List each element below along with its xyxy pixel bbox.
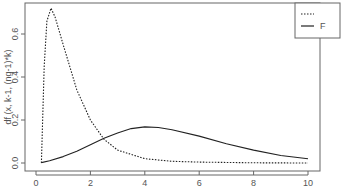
x-tick-label: 6 [197, 178, 202, 188]
legend: F [295, 3, 340, 38]
x-tick-label: 10 [303, 178, 313, 188]
x-tick-label: 0 [33, 178, 38, 188]
x-tick-label: 4 [142, 178, 147, 188]
plot-box [25, 3, 320, 171]
legend-label-2: F [320, 21, 326, 31]
y-tick-label: 0.6 [10, 28, 20, 41]
solid-density-curve-F [41, 127, 308, 163]
x-axis: 0246810 [33, 171, 313, 188]
dotted-density-curve [41, 8, 308, 163]
y-axis-label: df (x, k-1, (ng-1)*k) [3, 49, 13, 124]
legend-box [295, 3, 340, 38]
x-tick-label: 2 [88, 178, 93, 188]
y-tick-label: 0.0 [10, 157, 20, 170]
x-tick-label: 8 [251, 178, 256, 188]
series-lines [41, 8, 308, 163]
density-chart: 0246810 0.00.20.40.6 df (x, k-1, (ng-1)*… [0, 0, 343, 195]
